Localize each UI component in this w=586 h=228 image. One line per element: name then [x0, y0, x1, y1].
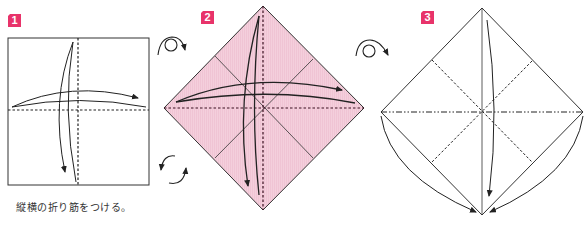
turn-over-icon [356, 40, 388, 57]
origami-diagram: 1 2 3 縦横の折り筋をつける。 [0, 0, 586, 228]
diagram-canvas [0, 0, 586, 228]
step-2-figure [164, 6, 364, 210]
step-badge-1: 1 [8, 14, 21, 27]
step-1-figure [8, 38, 149, 185]
rotate-icon [161, 156, 186, 184]
turn-over-icon [158, 37, 185, 55]
step-3-figure [381, 8, 583, 215]
step-1-caption: 縦横の折り筋をつける。 [16, 199, 132, 214]
step-badge-2: 2 [201, 11, 214, 24]
step-badge-3: 3 [421, 11, 434, 24]
